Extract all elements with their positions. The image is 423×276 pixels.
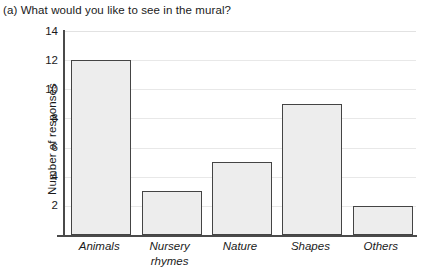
gridline [64, 31, 416, 32]
x-axis-category-labels: AnimalsNurseryrhymesNatureShapesOthers [64, 239, 416, 275]
y-axis-tick-label: 8 [36, 113, 58, 124]
plot-area [64, 31, 416, 235]
x-axis-category-label: Others [346, 239, 416, 254]
bar [142, 191, 202, 235]
x-axis-category-label: Nature [205, 239, 275, 254]
y-axis-tick-label: 14 [36, 26, 58, 37]
x-axis-label-line: Shapes [275, 239, 345, 254]
x-axis-label-line: rhymes [134, 254, 204, 269]
bar [282, 104, 342, 235]
y-axis-line [63, 30, 65, 236]
x-axis-category-label: Animals [64, 239, 134, 254]
x-axis-label-line: Others [346, 239, 416, 254]
x-axis-label-line: Nursery [134, 239, 204, 254]
x-axis-category-label: Nurseryrhymes [134, 239, 204, 268]
y-axis-tick-label: 6 [36, 142, 58, 153]
y-axis-tick-label: 4 [36, 171, 58, 182]
y-axis-tick-label: 2 [36, 200, 58, 211]
x-axis-category-label: Shapes [275, 239, 345, 254]
y-axis-tick-label: 10 [36, 84, 58, 95]
y-axis-tick-label: 12 [36, 55, 58, 66]
bar [353, 206, 413, 235]
x-axis-label-line: Nature [205, 239, 275, 254]
bar [71, 60, 131, 235]
x-axis-line [57, 235, 417, 237]
bar [212, 162, 272, 235]
x-axis-label-line: Animals [64, 239, 134, 254]
y-axis-tick-labels: 2468101214 [33, 31, 58, 235]
chart-title: (a) What would you like to see in the mu… [3, 3, 231, 17]
